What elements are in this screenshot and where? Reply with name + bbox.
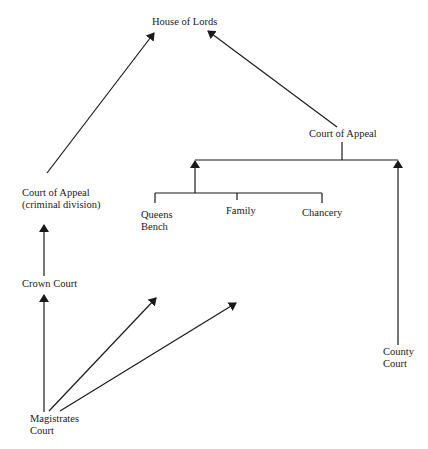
family-label: Family — [226, 205, 256, 216]
magistrates-court-line2: Court — [30, 425, 79, 437]
node-court-of-appeal-civil: Court of Appeal — [309, 128, 377, 140]
edge-magistrates-to-queens-bench — [49, 298, 156, 411]
diagram-edges — [0, 0, 428, 449]
edge-coa-civil-to-lords — [208, 31, 337, 127]
node-county-court: County Court — [383, 346, 414, 370]
edge-coa-criminal-to-lords — [47, 33, 154, 173]
magistrates-court-line1: Magistrates — [30, 413, 79, 425]
node-house-of-lords: House of Lords — [152, 16, 217, 28]
court-of-appeal-criminal-line2: (criminal division) — [22, 199, 100, 211]
court-of-appeal-criminal-line1: Court of Appeal — [22, 187, 100, 199]
node-magistrates-court: Magistrates Court — [30, 413, 79, 437]
queens-bench-line2: Bench — [141, 221, 173, 233]
chancery-label: Chancery — [302, 207, 342, 218]
county-court-line1: County — [383, 346, 414, 358]
county-court-line2: Court — [383, 358, 414, 370]
edge-magistrates-to-family — [60, 303, 236, 411]
node-court-of-appeal-criminal: Court of Appeal (criminal division) — [22, 187, 100, 211]
node-chancery: Chancery — [302, 207, 342, 219]
node-queens-bench: Queens Bench — [141, 209, 173, 233]
crown-court-label: Crown Court — [22, 278, 77, 289]
queens-bench-line1: Queens — [141, 209, 173, 221]
node-family: Family — [226, 205, 256, 217]
node-crown-court: Crown Court — [22, 278, 77, 290]
court-of-appeal-civil-label: Court of Appeal — [309, 128, 377, 139]
house-of-lords-label: House of Lords — [152, 16, 217, 27]
